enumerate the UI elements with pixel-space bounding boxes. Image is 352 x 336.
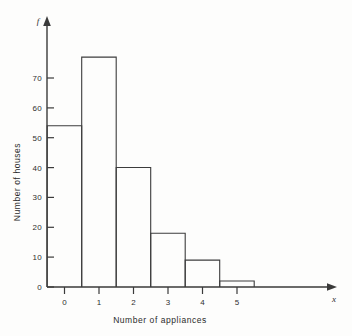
x-tick-labels: 0 1 2 3 4 5 (62, 298, 240, 307)
bar-0 (47, 126, 81, 287)
histogram-figure: 0 10 20 30 40 50 60 70 0 1 2 3 4 5 f x N… (0, 0, 352, 336)
x-axis-ticks (65, 287, 238, 294)
x-tick-label-2: 2 (131, 298, 136, 307)
y-tick-label-50: 50 (33, 134, 43, 143)
x-axis-symbol: x (331, 294, 336, 304)
histogram-bars (47, 57, 254, 287)
y-axis-ticks (47, 78, 54, 287)
x-axis-title: Number of appliances (113, 315, 207, 325)
y-tick-label-20: 20 (33, 223, 43, 232)
y-axis-symbol: f (37, 16, 41, 26)
bar-5 (220, 281, 255, 287)
y-tick-label-10: 10 (33, 253, 43, 262)
y-axis-title: Number of houses (12, 143, 22, 221)
bar-3 (151, 233, 186, 287)
y-tick-labels: 0 10 20 30 40 50 60 70 (33, 74, 43, 292)
bar-4 (185, 260, 220, 287)
x-tick-label-0: 0 (62, 298, 67, 307)
y-tick-label-40: 40 (33, 164, 43, 173)
x-tick-label-3: 3 (166, 298, 171, 307)
y-tick-label-0: 0 (37, 283, 42, 292)
y-tick-label-70: 70 (33, 74, 43, 83)
bar-1 (82, 57, 117, 287)
bar-2 (116, 168, 151, 287)
y-tick-label-30: 30 (33, 193, 43, 202)
x-tick-label-4: 4 (200, 298, 205, 307)
y-axis-arrowhead (43, 16, 51, 26)
y-tick-label-60: 60 (33, 104, 43, 113)
x-axis-arrowhead (327, 283, 337, 291)
histogram-plot: 0 10 20 30 40 50 60 70 0 1 2 3 4 5 f x N… (0, 0, 352, 336)
x-tick-label-5: 5 (235, 298, 240, 307)
x-tick-label-1: 1 (97, 298, 102, 307)
